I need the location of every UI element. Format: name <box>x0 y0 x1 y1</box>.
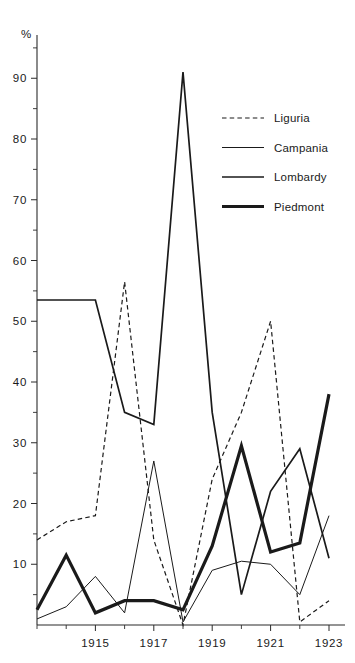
x-axis-tick-label: 1919 <box>198 637 226 649</box>
y-axis-ticks <box>31 48 37 595</box>
y-axis-tick-label: 50 <box>13 315 27 327</box>
y-axis-unit-label: % <box>21 28 31 40</box>
y-axis-tick-labels: 102030405060708090 <box>13 72 27 570</box>
chart-container: 102030405060708090 19151917191919211923 … <box>0 0 355 663</box>
legend-label-lombardy: Lombardy <box>274 171 327 183</box>
y-axis-tick-label: 20 <box>13 498 27 510</box>
y-axis-tick-label: 80 <box>13 133 27 145</box>
x-axis-tick-label: 1917 <box>140 637 168 649</box>
x-axis-tick-label: 1921 <box>256 637 284 649</box>
x-axis-tick-label: 1923 <box>315 637 343 649</box>
y-axis-tick-label: 40 <box>13 376 27 388</box>
y-axis-tick-label: 60 <box>13 255 27 267</box>
legend-label-campania: Campania <box>274 142 328 154</box>
x-axis-tick-labels: 19151917191919211923 <box>81 637 343 649</box>
chart-legend: LiguriaCampaniaLombardyPiedmont <box>222 112 328 213</box>
y-axis-tick-label: 70 <box>13 194 27 206</box>
x-axis-tick-label: 1915 <box>81 637 109 649</box>
y-axis-tick-label: 10 <box>13 558 27 570</box>
legend-label-liguria: Liguria <box>274 112 310 124</box>
series-line-liguria <box>37 282 329 625</box>
y-axis-tick-label: 90 <box>13 72 27 84</box>
series-line-campania <box>37 461 329 622</box>
line-chart: 102030405060708090 19151917191919211923 … <box>0 0 355 663</box>
legend-label-piedmont: Piedmont <box>274 201 325 213</box>
y-axis-tick-label: 30 <box>13 437 27 449</box>
data-series-group <box>37 72 329 625</box>
